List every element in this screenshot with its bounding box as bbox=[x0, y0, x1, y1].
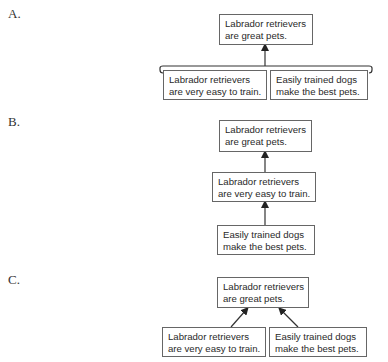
option-c-conclusion-box: Labrador retrievers are great pets. bbox=[217, 277, 309, 308]
option-c-label: C. bbox=[8, 272, 20, 288]
diagram-connectors bbox=[0, 0, 388, 362]
option-c-premise-box-1: Labrador retrievers are very easy to tra… bbox=[162, 327, 266, 357]
option-b-intermediate-box: Labrador retrievers are very easy to tra… bbox=[212, 172, 316, 202]
box-text-line2: make the best pets. bbox=[223, 241, 314, 253]
box-text-line1: Easily trained dogs bbox=[223, 229, 314, 241]
box-text-line1: Labrador retrievers bbox=[218, 176, 315, 188]
box-text-line2: make the best pets. bbox=[276, 86, 367, 98]
box-text-line2: are great pets. bbox=[225, 30, 312, 42]
option-c-arrow-left bbox=[231, 310, 246, 327]
box-text-line1: Labrador retrievers bbox=[169, 74, 266, 86]
box-text-line1: Labrador retrievers bbox=[225, 18, 312, 30]
option-a-premise-box-1: Labrador retrievers are very easy to tra… bbox=[163, 70, 267, 100]
option-b-conclusion-box: Labrador retrievers are great pets. bbox=[219, 120, 312, 152]
box-text-line1: Labrador retrievers bbox=[225, 124, 311, 136]
box-text-line2: are very easy to train. bbox=[168, 343, 265, 355]
box-text-line2: make the best pets. bbox=[275, 343, 366, 355]
option-b-base-box: Easily trained dogs make the best pets. bbox=[217, 225, 315, 255]
box-text-line1: Labrador retrievers bbox=[223, 281, 308, 293]
box-text-line2: are very easy to train. bbox=[218, 188, 315, 200]
box-text-line2: are great pets. bbox=[225, 136, 311, 148]
box-text-line1: Easily trained dogs bbox=[276, 74, 367, 86]
box-text-line2: are very easy to train. bbox=[169, 86, 266, 98]
box-text-line1: Easily trained dogs bbox=[275, 331, 366, 343]
option-a-conclusion-box: Labrador retrievers are great pets. bbox=[219, 14, 313, 45]
box-text-line1: Labrador retrievers bbox=[168, 331, 265, 343]
box-text-line2: are great pets. bbox=[223, 293, 308, 305]
option-a-premise-box-2: Easily trained dogs make the best pets. bbox=[270, 70, 368, 100]
option-a-label: A. bbox=[8, 6, 21, 22]
option-c-premise-box-2: Easily trained dogs make the best pets. bbox=[269, 327, 367, 357]
option-c-arrow-right bbox=[281, 310, 298, 327]
option-b-label: B. bbox=[8, 114, 20, 130]
